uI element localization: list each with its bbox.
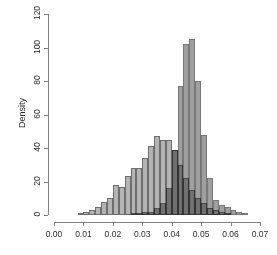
histogram-bar <box>101 202 107 215</box>
histogram-bar <box>142 212 148 215</box>
y-tick-mark <box>44 81 48 82</box>
histogram-bar <box>195 81 201 215</box>
histogram-bar <box>207 208 213 215</box>
x-tick-label: 0.06 <box>216 229 246 239</box>
x-tick-label: 0.04 <box>157 229 187 239</box>
histogram-bar <box>225 213 231 215</box>
histogram-bar <box>195 198 201 215</box>
histogram-bar <box>166 140 172 215</box>
histogram-bar <box>142 158 148 215</box>
histogram-bar <box>89 210 95 215</box>
histogram-bar <box>189 190 195 215</box>
histogram-bar <box>160 140 166 215</box>
histogram-bar <box>242 213 248 215</box>
histogram-bar <box>131 168 137 215</box>
histogram-bar <box>125 176 131 215</box>
histogram-bar <box>148 212 154 215</box>
y-tick-label: 80 <box>32 69 42 91</box>
x-tick-mark <box>113 222 114 226</box>
y-tick-label: 20 <box>32 170 42 192</box>
histogram-bar <box>219 205 225 215</box>
x-tick-label: 0.07 <box>245 229 275 239</box>
histogram-bar <box>107 198 113 215</box>
histogram-bar <box>95 207 101 215</box>
histogram-plot: Density 020406080100120 0.000.010.020.03… <box>0 0 277 255</box>
histogram-bar <box>178 86 184 215</box>
histogram-bar <box>119 187 125 215</box>
histogram-bar <box>225 207 231 215</box>
x-tick-label: 0.01 <box>68 229 98 239</box>
y-tick-label: 60 <box>32 103 42 125</box>
histogram-bar <box>189 39 195 215</box>
histogram-bar <box>172 150 178 215</box>
y-tick-mark <box>44 14 48 15</box>
x-axis-line <box>54 222 260 223</box>
histogram-bar <box>213 200 219 215</box>
y-tick-mark <box>44 182 48 183</box>
histogram-bar <box>183 44 189 215</box>
histogram-bar <box>113 185 119 215</box>
histogram-bar <box>154 136 160 215</box>
x-tick-label: 0.02 <box>98 229 128 239</box>
y-axis-label: Density <box>17 83 27 143</box>
y-tick-mark <box>44 215 48 216</box>
histogram-bar <box>154 208 160 215</box>
x-tick-label: 0.00 <box>39 229 69 239</box>
histogram-bar <box>172 150 178 215</box>
histogram-bar <box>178 165 184 215</box>
x-tick-mark <box>83 222 84 226</box>
y-tick-label: 120 <box>32 2 42 24</box>
histogram-bar <box>231 210 237 215</box>
histogram-bar <box>207 178 213 215</box>
y-tick-mark <box>44 48 48 49</box>
x-tick-mark <box>260 222 261 226</box>
y-tick-label: 40 <box>32 136 42 158</box>
histogram-bar <box>78 213 84 215</box>
histogram-bar <box>160 203 166 215</box>
histogram-bar <box>136 213 142 215</box>
x-tick-mark <box>231 222 232 226</box>
histogram-bar <box>219 212 225 215</box>
y-axis-line <box>48 14 49 215</box>
histogram-bar <box>236 212 242 215</box>
x-tick-mark <box>142 222 143 226</box>
histogram-bar <box>166 188 172 215</box>
y-tick-label: 0 <box>32 203 42 225</box>
histogram-bar <box>148 146 154 215</box>
histogram-bar <box>201 203 207 215</box>
x-tick-label: 0.05 <box>186 229 216 239</box>
y-tick-mark <box>44 148 48 149</box>
x-tick-mark <box>54 222 55 226</box>
y-tick-label: 100 <box>32 36 42 58</box>
x-tick-mark <box>201 222 202 226</box>
histogram-bar <box>83 212 89 215</box>
histogram-bar <box>131 213 137 215</box>
y-tick-mark <box>44 115 48 116</box>
histogram-bar <box>136 168 142 215</box>
x-tick-label: 0.03 <box>127 229 157 239</box>
histogram-bar <box>201 135 207 215</box>
histogram-bar <box>213 210 219 215</box>
histogram-bar <box>183 178 189 215</box>
x-tick-mark <box>172 222 173 226</box>
